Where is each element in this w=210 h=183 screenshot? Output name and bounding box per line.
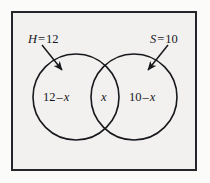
- left-region-operator: –: [56, 90, 64, 104]
- set-s-operator: =: [156, 32, 165, 46]
- set-h-symbol: H: [28, 32, 37, 46]
- right-region-variable: x: [150, 90, 156, 104]
- set-s-value: 10: [165, 32, 178, 46]
- left-region-variable: x: [64, 90, 70, 104]
- left-region-lead: 12: [43, 90, 56, 104]
- set-s-label: S=10: [150, 33, 178, 46]
- right-region-label: 10–x: [129, 91, 155, 104]
- set-h-value: 12: [46, 32, 59, 46]
- set-h-operator: =: [37, 32, 46, 46]
- venn-diagram-figure: H=12 S=10 12–x x 10–x: [0, 0, 210, 183]
- left-region-label: 12–x: [43, 91, 69, 104]
- right-region-lead: 10: [129, 90, 142, 104]
- set-h-label: H=12: [28, 33, 59, 46]
- center-region-variable: x: [101, 90, 107, 104]
- right-region-operator: –: [142, 90, 150, 104]
- center-region-label: x: [101, 91, 107, 104]
